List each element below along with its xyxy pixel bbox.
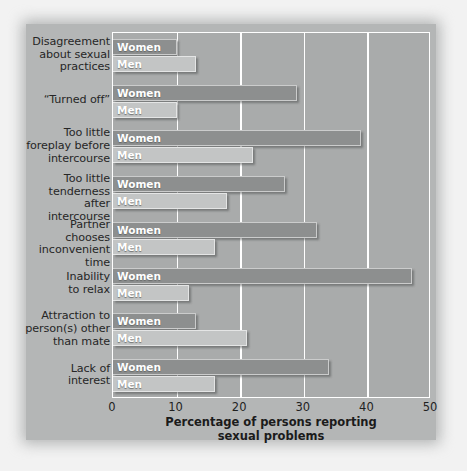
bar-group: WomenMen bbox=[113, 353, 429, 399]
bar-series-label: Men bbox=[117, 332, 142, 344]
category-label: Too littleforeplay beforeintercourse bbox=[22, 127, 110, 165]
bar-men: Men bbox=[113, 330, 247, 346]
category-label: Attraction toperson(s) otherthan mate bbox=[22, 310, 110, 348]
category-label-line: Too little bbox=[22, 173, 110, 186]
category-label-line: practices bbox=[22, 61, 110, 74]
bar-women: Women bbox=[113, 130, 361, 146]
bar-group: WomenMen bbox=[113, 33, 429, 79]
x-tick-label-20: 20 bbox=[232, 400, 247, 414]
bar-series-label: Men bbox=[117, 104, 142, 116]
bar-women: Women bbox=[113, 222, 317, 238]
category-label-line: Disagreement bbox=[22, 36, 110, 49]
category-label: Too littletendernessafter intercourse bbox=[22, 173, 110, 223]
bar-group: WomenMen bbox=[113, 308, 429, 354]
bar-group: WomenMen bbox=[113, 125, 429, 171]
bar-series-label: Women bbox=[117, 41, 161, 53]
category-label-line: person(s) other bbox=[22, 323, 110, 336]
bar-group: WomenMen bbox=[113, 79, 429, 125]
bar-women: Women bbox=[113, 39, 177, 55]
bar-series-label: Women bbox=[117, 132, 161, 144]
bar-men: Men bbox=[113, 376, 215, 392]
bar-series-label: Women bbox=[117, 178, 161, 190]
category-label: Inabilityto relax bbox=[22, 271, 110, 296]
bar-women: Women bbox=[113, 268, 412, 284]
bar-women: Women bbox=[113, 85, 297, 101]
bar-group: WomenMen bbox=[113, 216, 429, 262]
category-label: Lack ofinterest bbox=[22, 363, 110, 388]
category-label-line: foreplay before bbox=[22, 140, 110, 153]
bar-series-label: Women bbox=[117, 224, 161, 236]
category-label-line: interest bbox=[22, 375, 110, 388]
x-axis-title: Percentage of persons reporting sexual p… bbox=[112, 416, 430, 443]
x-axis-title-line-1: Percentage of persons reporting bbox=[112, 416, 430, 430]
plot-area: WomenMenWomenMenWomenMenWomenMenWomenMen… bbox=[112, 32, 430, 398]
bar-series-label: Women bbox=[117, 87, 161, 99]
bar-series-label: Women bbox=[117, 361, 161, 373]
category-label-line: to relax bbox=[22, 284, 110, 297]
category-label: Disagreementabout sexualpractices bbox=[22, 36, 110, 74]
category-label: Partner choosesinconvenienttime bbox=[22, 219, 110, 269]
bar-men: Men bbox=[113, 102, 177, 118]
x-tick-label-10: 10 bbox=[168, 400, 183, 414]
category-label-line: than mate bbox=[22, 336, 110, 349]
x-tick-label-0: 0 bbox=[108, 400, 115, 414]
bar-group: WomenMen bbox=[113, 170, 429, 216]
bar-series-label: Women bbox=[117, 270, 161, 282]
bar-women: Women bbox=[113, 359, 329, 375]
chart-figure: Disagreementabout sexualpractices“Turned… bbox=[0, 0, 467, 471]
category-label-line: time bbox=[22, 257, 110, 270]
category-label-line: Partner chooses bbox=[22, 219, 110, 244]
bar-men: Men bbox=[113, 285, 189, 301]
bar-series-label: Men bbox=[117, 149, 142, 161]
bar-men: Men bbox=[113, 147, 253, 163]
x-axis-ticks: 01020304050 bbox=[112, 400, 430, 416]
bar-men: Men bbox=[113, 56, 196, 72]
category-label-line: intercourse bbox=[22, 153, 110, 166]
bar-men: Men bbox=[113, 239, 215, 255]
x-tick-label-40: 40 bbox=[359, 400, 374, 414]
bar-series-label: Men bbox=[117, 241, 142, 253]
bar-women: Women bbox=[113, 176, 285, 192]
x-tick-label-50: 50 bbox=[423, 400, 438, 414]
category-label-line: “Turned off” bbox=[22, 94, 110, 107]
bar-women: Women bbox=[113, 313, 196, 329]
bar-series-label: Men bbox=[117, 378, 142, 390]
x-tick-label-30: 30 bbox=[295, 400, 310, 414]
bar-series-label: Men bbox=[117, 287, 142, 299]
bar-series-label: Men bbox=[117, 195, 142, 207]
category-label-line: Inability bbox=[22, 271, 110, 284]
bar-group: WomenMen bbox=[113, 262, 429, 308]
x-axis-title-line-2: sexual problems bbox=[112, 430, 430, 444]
bar-men: Men bbox=[113, 193, 227, 209]
category-label-line: inconvenient bbox=[22, 244, 110, 257]
category-label: “Turned off” bbox=[22, 94, 110, 107]
bar-series-label: Women bbox=[117, 315, 161, 327]
bar-series-label: Men bbox=[117, 58, 142, 70]
category-axis-labels: Disagreementabout sexualpractices“Turned… bbox=[22, 30, 110, 400]
